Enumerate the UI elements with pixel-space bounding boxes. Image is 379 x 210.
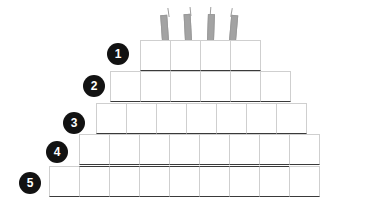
block[interactable] <box>96 103 127 134</box>
block-row-5 <box>49 166 320 197</box>
candle-4-icon <box>229 15 238 42</box>
block[interactable] <box>230 40 261 71</box>
block[interactable] <box>216 103 247 134</box>
candle-1-icon <box>160 15 169 41</box>
block[interactable] <box>79 134 110 165</box>
block[interactable] <box>49 166 80 197</box>
diagram-canvas: 12345 <box>0 0 379 210</box>
block-row-2 <box>110 71 291 102</box>
block[interactable] <box>109 134 140 165</box>
block[interactable] <box>276 103 307 134</box>
block[interactable] <box>79 166 110 197</box>
block[interactable] <box>169 134 200 165</box>
row-number-badge-1: 1 <box>107 43 129 65</box>
block[interactable] <box>170 40 201 71</box>
block[interactable] <box>246 103 277 134</box>
row-number-badge-5: 5 <box>19 172 41 194</box>
candle-2-icon <box>184 14 192 41</box>
block-row-1 <box>140 40 261 71</box>
block-row-4 <box>79 134 320 165</box>
block[interactable] <box>170 71 201 102</box>
block[interactable] <box>140 71 171 102</box>
row-number-badge-4: 4 <box>46 141 68 163</box>
row-number-badge-2: 2 <box>83 75 105 97</box>
block[interactable] <box>289 134 320 165</box>
block[interactable] <box>229 166 260 197</box>
block[interactable] <box>259 134 290 165</box>
block[interactable] <box>186 103 217 134</box>
block[interactable] <box>110 71 141 102</box>
block[interactable] <box>229 134 260 165</box>
block[interactable] <box>289 166 320 197</box>
block[interactable] <box>140 40 171 71</box>
block[interactable] <box>126 103 157 134</box>
block[interactable] <box>200 71 231 102</box>
block[interactable] <box>199 134 230 165</box>
candle-3-icon <box>207 14 215 41</box>
block[interactable] <box>139 134 170 165</box>
candle-wick-icon <box>167 8 169 17</box>
block[interactable] <box>109 166 140 197</box>
block[interactable] <box>169 166 200 197</box>
block[interactable] <box>259 166 290 197</box>
block-row-3 <box>96 103 307 134</box>
block[interactable] <box>230 71 261 102</box>
block[interactable] <box>139 166 170 197</box>
block[interactable] <box>199 166 230 197</box>
block[interactable] <box>200 40 231 71</box>
block[interactable] <box>156 103 187 134</box>
block[interactable] <box>260 71 291 102</box>
row-number-badge-3: 3 <box>63 112 85 134</box>
